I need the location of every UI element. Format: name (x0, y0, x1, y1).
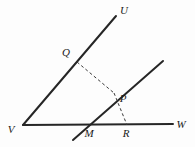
label-V: V (8, 123, 16, 135)
label-U: U (120, 4, 129, 16)
ray-vu-line (23, 16, 116, 125)
label-M: M (83, 127, 94, 139)
label-P: P (119, 92, 127, 104)
ray-vw-line (23, 124, 173, 125)
geometry-figure: U Q P V M R W (0, 0, 195, 147)
dashed-segment-qp (77, 62, 114, 93)
label-R: R (122, 127, 130, 139)
label-Q: Q (62, 46, 70, 58)
geometry-canvas: U Q P V M R W (0, 0, 195, 147)
label-W: W (176, 118, 186, 130)
